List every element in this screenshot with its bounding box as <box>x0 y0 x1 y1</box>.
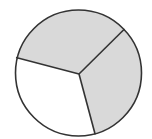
divided-circle-diagram <box>0 0 152 139</box>
circle-svg <box>0 0 152 139</box>
